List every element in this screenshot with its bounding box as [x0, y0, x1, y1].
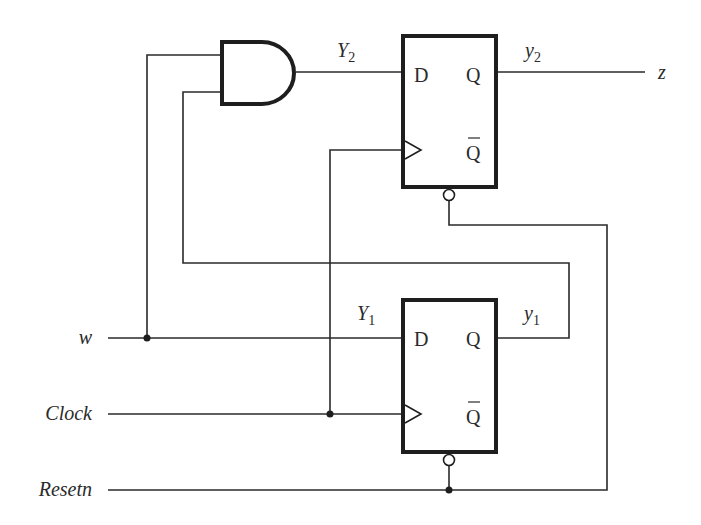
- ff2-d-label: D: [414, 64, 428, 86]
- ff1-qbar-label: Q: [466, 406, 481, 428]
- junction-clock: [327, 411, 334, 418]
- reset-bubble-icon: [444, 190, 455, 201]
- label-y2: y2: [523, 39, 541, 65]
- flipflop-bottom: D Q Q: [403, 300, 496, 466]
- flipflop-top: D Q Q: [403, 36, 496, 201]
- ff2-q-label: Q: [466, 64, 481, 86]
- junction-w: [144, 335, 151, 342]
- ff2-qbar-label: Q: [466, 142, 481, 164]
- circuit-diagram: D Q Q D Q Q Y2 y2 z Y1 y1 w Clock Resetn: [0, 0, 701, 525]
- label-z: z: [657, 61, 666, 83]
- label-w: w: [79, 326, 93, 348]
- label-Y1: Y1: [357, 302, 375, 328]
- wire-w-to-and: [147, 55, 222, 338]
- label-y1: y1: [522, 302, 540, 328]
- and-gate: [222, 42, 294, 104]
- wire-clock-to-ff2: [330, 150, 402, 414]
- reset-bubble-icon: [444, 455, 455, 466]
- label-resetn: Resetn: [38, 478, 92, 500]
- ff1-d-label: D: [414, 328, 428, 350]
- label-Y2: Y2: [337, 39, 355, 65]
- junction-resetn: [446, 487, 453, 494]
- ff1-q-label: Q: [466, 328, 481, 350]
- wire-y1-to-and: [183, 92, 569, 338]
- label-clock: Clock: [45, 402, 93, 424]
